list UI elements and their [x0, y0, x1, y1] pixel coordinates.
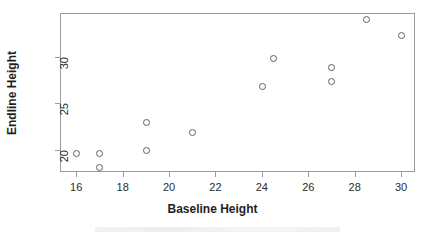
- x-axis-tick-label: 26: [302, 181, 314, 193]
- x-axis-tick: [355, 172, 356, 177]
- x-axis-tick-label: 20: [163, 181, 175, 193]
- plot-frame: [60, 13, 415, 172]
- x-axis-tick: [169, 172, 170, 177]
- x-axis-tick-label: 24: [256, 181, 268, 193]
- x-axis-label: Baseline Height: [0, 202, 425, 216]
- x-axis-tick: [215, 172, 216, 177]
- x-axis-tick-label: 18: [117, 181, 129, 193]
- x-axis-tick: [262, 172, 263, 177]
- x-axis-tick: [401, 172, 402, 177]
- y-axis-tick-label: 30: [58, 57, 70, 69]
- x-axis-tick-label: 22: [209, 181, 221, 193]
- y-axis-tick-label: 20: [58, 150, 70, 162]
- x-axis-tick: [308, 172, 309, 177]
- bottom-edge-artifact: [95, 227, 340, 232]
- x-axis-tick-label: 16: [70, 181, 82, 193]
- x-axis-tick: [123, 172, 124, 177]
- x-axis-tick-label: 30: [395, 181, 407, 193]
- y-axis-tick-label: 25: [58, 103, 70, 115]
- y-axis-label-text: Endline Height: [5, 51, 19, 135]
- x-axis-tick-label: 28: [349, 181, 361, 193]
- x-axis-tick: [76, 172, 77, 177]
- y-axis-label: Endline Height: [4, 0, 20, 185]
- scatter-plot-figure: Baseline Height Endline Height 161820222…: [0, 0, 425, 235]
